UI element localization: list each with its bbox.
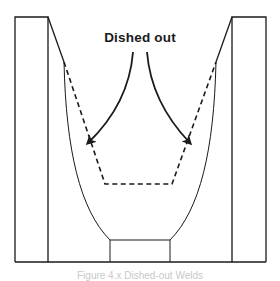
left-plate	[15, 17, 48, 262]
right-weld-profile	[170, 62, 216, 240]
right-annotation-arrow	[147, 52, 190, 143]
right-plate	[232, 17, 266, 262]
left-annotation-arrow	[88, 52, 133, 143]
left-weld-profile	[64, 62, 110, 240]
figure-caption: Figure 4.x Dished-out Welds	[0, 270, 280, 281]
dished-out-label: Dished out	[0, 30, 280, 45]
dished-out-dashed-profile	[64, 62, 216, 184]
root-block	[110, 240, 170, 262]
